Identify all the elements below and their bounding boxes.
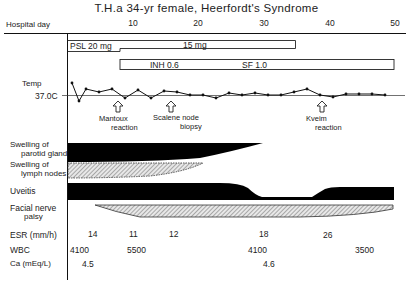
lymph-label: Swelling of: [10, 160, 49, 169]
facial-nerve-label-2: palsy: [24, 212, 43, 221]
scalene-label-2: biopsy: [180, 122, 202, 131]
temperature-points: [71, 82, 387, 103]
parotid-label: Swelling of: [10, 140, 49, 149]
temp-label: Temp: [22, 79, 42, 88]
inh-label: INH 0.6: [150, 60, 179, 70]
sf-label: SF 1.0: [242, 60, 267, 70]
parotid-gland-bar: [68, 143, 263, 162]
kveim-arrow-icon: [317, 101, 327, 112]
psl-reduced-label: 15 mg: [183, 40, 207, 50]
kveim-label-2: reaction: [315, 123, 342, 132]
parotid-label-2: parotid gland: [21, 149, 67, 158]
lymph-label-2: lymph nodes: [21, 169, 66, 178]
esr-value: 14: [88, 229, 97, 239]
temp-reference-label: 37.0C: [35, 91, 58, 101]
uveitis-label: Uveitis: [10, 186, 36, 196]
mantoux-label-2: reaction: [111, 123, 138, 132]
scalene-label: Scalene node: [153, 113, 199, 122]
wbc-value: 4100: [248, 245, 267, 255]
ca-label: Ca (mEq/L): [10, 259, 51, 268]
mantoux-arrow-icon: [113, 101, 123, 112]
esr-value: 18: [259, 229, 268, 239]
wbc-value: 3500: [355, 245, 374, 255]
psl-initial-label: PSL 20 mg: [70, 41, 112, 51]
esr-value: 12: [169, 229, 178, 239]
facial-nerve-palsy-bar: [95, 205, 393, 217]
mantoux-label: Mantoux: [99, 114, 128, 123]
wbc-label: WBC: [10, 245, 30, 255]
lymph-nodes-bar: [68, 163, 203, 178]
esr-value: 26: [323, 230, 332, 240]
scalene-arrow-icon: [166, 101, 176, 112]
uveitis-bar: [68, 183, 394, 200]
ca-value: 4.5: [82, 259, 94, 269]
wbc-value: 5500: [127, 245, 146, 255]
ca-value: 4.6: [263, 259, 275, 269]
esr-label: ESR (mm/h): [10, 230, 57, 240]
wbc-value: 4100: [70, 245, 89, 255]
kveim-label: Kveim: [306, 114, 327, 123]
esr-value: 11: [129, 229, 138, 239]
